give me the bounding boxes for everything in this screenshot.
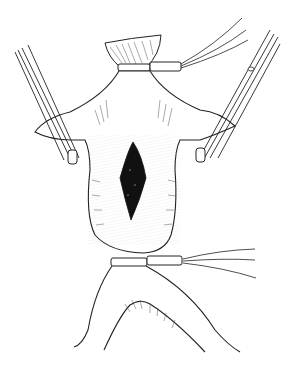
right-clamp bbox=[196, 30, 280, 162]
left-clamp bbox=[15, 45, 79, 164]
surgical-illustration bbox=[0, 0, 292, 365]
bifurcation bbox=[74, 266, 240, 352]
lower-tourniquet bbox=[111, 249, 256, 278]
illustration-canvas bbox=[0, 0, 292, 365]
